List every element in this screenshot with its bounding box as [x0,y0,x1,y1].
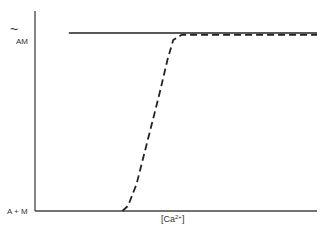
series-line-dashed [122,35,317,211]
series-layer [69,33,317,211]
y-label-top-symbol: ~ [10,21,18,37]
y-label-top: AM [16,37,28,46]
x-axis-label: [Ca2+] [161,214,184,224]
chart: ~ AM A + M [Ca2+] [0,0,324,235]
y-label-bottom: A + M [7,207,28,216]
